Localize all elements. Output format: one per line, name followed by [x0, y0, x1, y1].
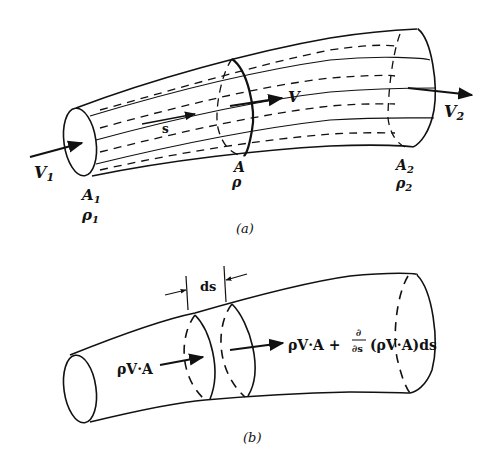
label-ds: ds — [200, 279, 216, 294]
inlet-velocity-arrow — [30, 143, 82, 157]
label-a2: A2 — [394, 157, 414, 175]
tube-a-top-wall — [76, 29, 418, 108]
ds-arrow-right — [226, 274, 247, 280]
label-a: A — [232, 159, 245, 175]
label-inflow: ρV·A — [117, 361, 154, 377]
label-outflow-base: ρV·A + — [288, 337, 341, 353]
inflow-arrow — [160, 357, 203, 365]
outlet-velocity-arrow — [408, 88, 472, 95]
outlet-section-a2-back — [388, 34, 405, 147]
outflow-arrow — [230, 343, 283, 350]
label-rho: ρ — [231, 174, 242, 190]
ds-extension-right — [224, 266, 226, 302]
inlet-section-a1 — [59, 106, 100, 178]
tube-a-bottom-wall — [92, 145, 413, 176]
ds-extension-left — [186, 276, 188, 310]
ds-arrow-left — [165, 290, 186, 295]
label-a1: A1 — [80, 186, 101, 205]
label-rho1: ρ1 — [81, 206, 99, 225]
streamline — [90, 57, 430, 116]
label-v2: V2 — [444, 102, 464, 123]
caption-b: (b) — [243, 430, 261, 445]
figure-a-stream-tube — [30, 29, 472, 178]
tube-b-outlet-front — [410, 275, 435, 393]
mid-velocity-arrow — [230, 98, 282, 106]
stream-tube-diagram: V1 A1 ρ1 s V A ρ V2 A2 ρ2 (a) ds ρV·A ρV… — [0, 0, 499, 460]
tube-b-inlet-ellipse — [59, 353, 100, 425]
label-partial-numerator: ∂ — [356, 327, 361, 338]
label-v: V — [288, 88, 301, 106]
label-rho2: ρ2 — [395, 175, 412, 193]
tube-b-bottom-wall — [90, 392, 410, 422]
caption-a: (a) — [236, 221, 254, 236]
tube-b-outlet-back — [395, 276, 410, 393]
label-outflow-tail: (ρV·A)ds — [370, 337, 437, 353]
label-partial-denominator: ∂s — [352, 343, 363, 354]
label-s: s — [162, 122, 169, 136]
label-v1: V1 — [34, 163, 54, 184]
tube-b-top-wall — [70, 273, 417, 355]
